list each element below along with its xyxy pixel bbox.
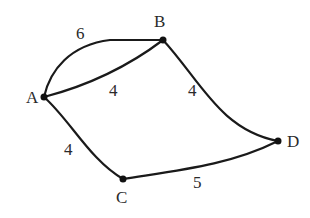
- node-label-D: D: [287, 132, 299, 151]
- node-label-A: A: [26, 88, 39, 107]
- edge-B-D-2: [163, 40, 278, 141]
- edge-A-B-0: [44, 40, 163, 97]
- edge-weight-label: 4: [109, 81, 118, 100]
- edge-weight-label: 4: [64, 140, 73, 159]
- node-label-B: B: [154, 12, 165, 31]
- node-label-C: C: [116, 188, 127, 207]
- graph-svg: 64445ABCD: [0, 0, 310, 218]
- graph-diagram: 64445ABCD: [0, 0, 310, 218]
- edge-weight-label: 6: [76, 24, 85, 43]
- edge-weight-label: 5: [193, 173, 202, 192]
- node-B: [160, 37, 167, 44]
- edge-A-B-1: [44, 40, 163, 97]
- edge-A-C-3: [44, 97, 123, 179]
- node-A: [41, 94, 48, 101]
- node-D: [275, 138, 282, 145]
- node-C: [120, 176, 127, 183]
- edge-weight-label: 4: [188, 81, 197, 100]
